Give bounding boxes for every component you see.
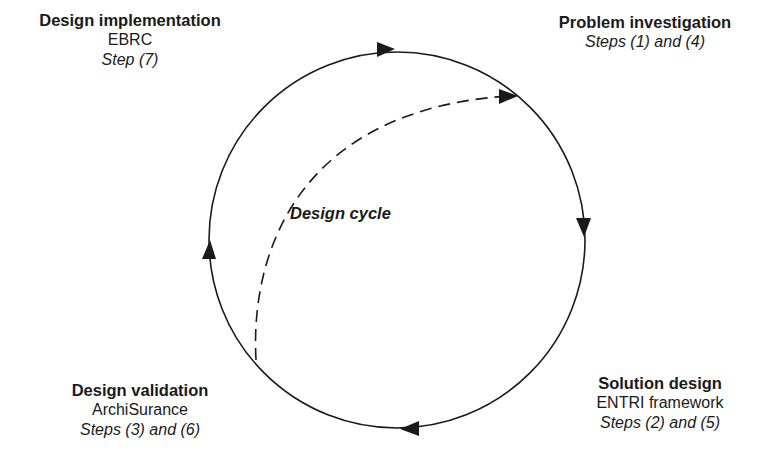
- phase-title: Solution design: [570, 373, 750, 393]
- phase-artifact: ArchiSurance: [40, 400, 240, 420]
- phase-steps: Steps (3) and (6): [40, 420, 240, 440]
- phase-steps: Step (7): [30, 50, 230, 70]
- phase-design-implementation: Design implementation EBRC Step (7): [30, 10, 230, 70]
- arrow-dashed-end-icon: [499, 89, 518, 104]
- design-cycle-dashed-arc: [256, 96, 508, 360]
- phase-artifact: EBRC: [30, 30, 230, 50]
- phase-title: Problem investigation: [540, 12, 750, 32]
- arrow-bottom-icon: [400, 421, 419, 436]
- phase-steps: Steps (1) and (4): [540, 32, 750, 52]
- engineering-cycle-circle: [209, 52, 585, 428]
- phase-problem-investigation: Problem investigation Steps (1) and (4): [540, 12, 750, 52]
- phase-steps: Steps (2) and (5): [570, 413, 750, 433]
- arrow-top-icon: [377, 42, 395, 57]
- arrow-right-icon: [576, 218, 591, 237]
- phase-title: Design implementation: [30, 10, 230, 30]
- phase-title: Design validation: [40, 380, 240, 400]
- arrow-left-icon: [202, 240, 216, 259]
- phase-artifact: ENTRI framework: [570, 393, 750, 413]
- phase-design-validation: Design validation ArchiSurance Steps (3)…: [40, 380, 240, 440]
- phase-solution-design: Solution design ENTRI framework Steps (2…: [570, 373, 750, 433]
- design-cycle-label: Design cycle: [290, 204, 391, 223]
